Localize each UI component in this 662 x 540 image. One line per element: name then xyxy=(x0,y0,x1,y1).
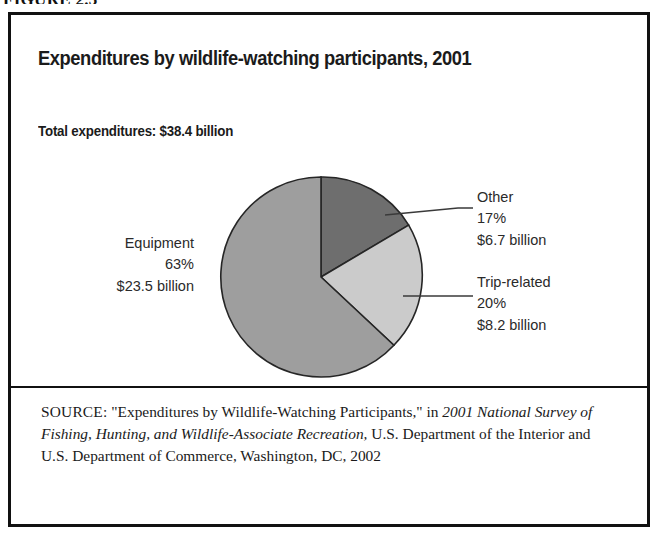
pie-label-other-percent: 17% xyxy=(477,208,546,229)
pie-slice-other xyxy=(321,177,409,277)
pie-label-trip-related-percent: 20% xyxy=(477,293,551,314)
pie-label-trip-related-amount: $8.2 billion xyxy=(477,315,551,336)
leader-line-other xyxy=(385,208,473,215)
source-quoted-title: "Expenditures by Wildlife-Watching Parti… xyxy=(111,403,422,420)
pie-label-equipment-name: Equipment xyxy=(29,233,194,254)
pie-slice-trip-related xyxy=(321,225,422,345)
page-title: Expenditures by wildlife-watching partic… xyxy=(38,47,471,70)
pie-label-equipment-percent: 63% xyxy=(29,254,194,275)
source-divider xyxy=(11,386,647,388)
chart-subtitle-total-expenditures: Total expenditures: $38.4 billion xyxy=(38,123,233,139)
source-in-word: in xyxy=(426,403,438,420)
pie-label-equipment: Equipment 63% $23.5 billion xyxy=(29,233,194,297)
pie-label-other-amount: $6.7 billion xyxy=(477,230,546,251)
pie-label-trip-related-name: Trip-related xyxy=(477,272,551,293)
figure-label: FIGURE 2.3 xyxy=(3,0,98,4)
source-label: SOURCE: xyxy=(41,403,107,420)
pie-label-other-name: Other xyxy=(477,187,546,208)
figure-box: Expenditures by wildlife-watching partic… xyxy=(8,12,650,527)
pie-label-trip-related: Trip-related 20% $8.2 billion xyxy=(477,272,551,336)
source-note: SOURCE: "Expenditures by Wildlife-Watchi… xyxy=(41,401,619,467)
pie-label-equipment-amount: $23.5 billion xyxy=(29,276,194,297)
pie-slice-equipment xyxy=(221,177,394,377)
pie-label-other: Other 17% $6.7 billion xyxy=(477,187,546,251)
